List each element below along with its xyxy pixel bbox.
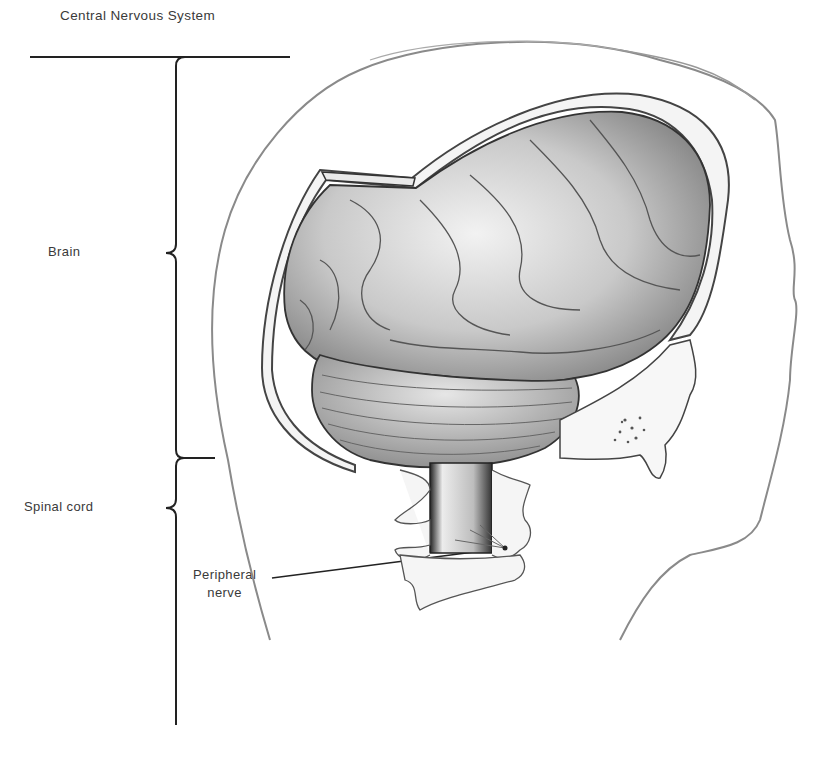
peripheral-nerve-point (503, 546, 508, 551)
hair-strokes (620, 50, 755, 100)
brain-brace (166, 57, 215, 458)
cerebrum (284, 112, 710, 383)
anatomy-illustration (0, 0, 831, 759)
hair-strokes (370, 41, 620, 60)
spinal-cord-brace (166, 458, 184, 725)
spinal-cord (430, 463, 492, 553)
